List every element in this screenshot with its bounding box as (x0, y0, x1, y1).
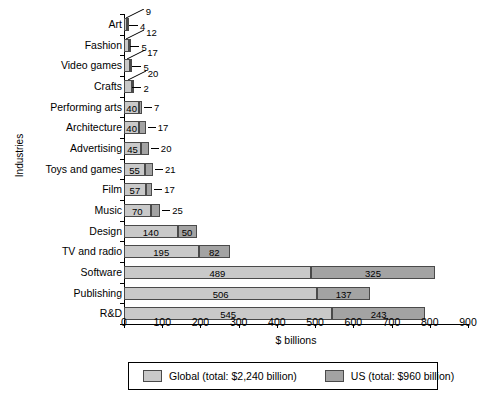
y-axis-tick (120, 200, 124, 201)
leader-line (162, 210, 170, 211)
bar-row (124, 59, 468, 72)
bar-row: 14050 (124, 225, 468, 238)
bar-row: 40 (124, 101, 468, 114)
legend-swatch-us-icon (325, 370, 344, 382)
x-axis-tick-label: 700 (372, 316, 412, 328)
bar-value-global: 12 (146, 26, 157, 39)
leader-line (151, 148, 159, 149)
bar-value-us: 21 (165, 163, 176, 176)
leader-line (129, 25, 138, 26)
bar-row: 19582 (124, 245, 468, 258)
legend-item-global: Global (total: $2,240 billion) (143, 370, 297, 382)
x-axis-tick-label: 300 (219, 316, 259, 328)
leader-line (126, 9, 144, 18)
bar-value-global: 20 (148, 67, 159, 80)
legend-label-global: Global (total: $2,240 billion) (169, 370, 297, 382)
leader-line (144, 107, 152, 108)
bar-row: 57 (124, 183, 468, 196)
x-axis-tick-label: 500 (295, 316, 335, 328)
bar-value-us: 137 (318, 288, 368, 301)
bar-value-global: 9 (146, 5, 151, 18)
bar-value-global: 195 (125, 246, 198, 259)
y-axis-tick (120, 159, 124, 160)
x-axis-tick-label: 100 (142, 316, 182, 328)
bar-value-global: 506 (125, 288, 316, 301)
bar-segment-global: 489 (124, 266, 311, 279)
bar-value-global: 140 (125, 226, 177, 239)
bar-value-us: 50 (179, 226, 196, 239)
y-axis-tick (120, 221, 124, 222)
x-axis-tick-label: 0 (104, 316, 144, 328)
bar-segment-global: 506 (124, 287, 317, 300)
bar-row: 489325 (124, 266, 468, 279)
category-label: Art (12, 19, 122, 30)
bar-segment-us: 50 (178, 225, 197, 238)
bar-segment-global: 57 (124, 183, 146, 196)
bar-value-us: 325 (312, 267, 434, 280)
bar-value-global: 45 (125, 143, 140, 156)
category-label: Design (12, 226, 122, 237)
bar-segment-global: 140 (124, 225, 178, 238)
bar-value-global: 489 (125, 267, 310, 280)
bar-row: 506137 (124, 287, 468, 300)
bar-segment-us (139, 101, 142, 114)
bar-value-us: 17 (164, 183, 175, 196)
leader-line (154, 189, 162, 190)
leader-line (127, 50, 145, 59)
bar-segment-global: 40 (124, 121, 139, 134)
leader-line (155, 169, 163, 170)
leader-line (132, 87, 141, 88)
bar-segment-global (124, 80, 132, 93)
bar-row (124, 18, 468, 31)
bar-chart: Industries ArtFashionVideo gamesCraftsPe… (0, 0, 482, 400)
y-axis-tick (120, 179, 124, 180)
bar-value-us: 82 (200, 246, 229, 259)
bar-segment-us (145, 163, 153, 176)
bar-value-us: 20 (161, 142, 172, 155)
bar-value-global: 57 (125, 184, 145, 197)
bar-row (124, 39, 468, 52)
y-axis-tick (120, 138, 124, 139)
category-label: Toys and games (12, 164, 122, 175)
y-axis-tick (120, 303, 124, 304)
y-axis-tick (120, 97, 124, 98)
leader-line (132, 66, 141, 67)
bar-segment-global: 70 (124, 204, 151, 217)
category-label: Video games (12, 60, 122, 71)
legend-label-us: US (total: $960 billion) (351, 370, 454, 382)
leader-line (148, 127, 156, 128)
bar-row (124, 80, 468, 93)
category-label: TV and radio (12, 246, 122, 257)
x-axis-tick-label: 400 (257, 316, 297, 328)
bar-value-global: 70 (125, 205, 150, 218)
category-label: Architecture (12, 122, 122, 133)
y-axis-tick (120, 117, 124, 118)
bar-segment-us: 82 (199, 245, 230, 258)
legend-item-us: US (total: $960 billion) (325, 370, 454, 382)
leader-line (130, 46, 139, 47)
bar-segment-us (141, 142, 149, 155)
bar-row: 45 (124, 142, 468, 155)
x-axis-tick-label: 600 (333, 316, 373, 328)
category-label: Film (12, 184, 122, 195)
y-axis-tick (120, 241, 124, 242)
leader-line (128, 71, 146, 80)
bar-segment-us: 325 (311, 266, 435, 279)
chart-legend: Global (total: $2,240 billion) US (total… (128, 362, 438, 390)
y-axis-tick (120, 76, 124, 77)
bar-segment-us (146, 183, 152, 196)
y-axis-tick (120, 283, 124, 284)
bar-segment-global: 40 (124, 101, 139, 114)
leader-line (126, 30, 144, 39)
category-label: Music (12, 205, 122, 216)
bar-row: 40 (124, 121, 468, 134)
bar-segment-global: 55 (124, 163, 145, 176)
bar-segment-us (151, 204, 161, 217)
category-label: Advertising (12, 143, 122, 154)
category-label: Performing arts (12, 102, 122, 113)
bar-value-us: 25 (172, 204, 183, 217)
bar-value-global: 55 (125, 164, 144, 177)
x-axis-tick-label: 900 (448, 316, 482, 328)
category-label: Crafts (12, 81, 122, 92)
x-axis-tick-label: 800 (410, 316, 450, 328)
